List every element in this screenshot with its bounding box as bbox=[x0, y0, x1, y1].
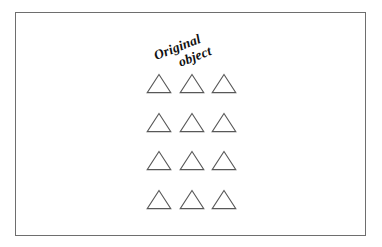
triangle-marker bbox=[211, 112, 237, 133]
triangle-marker bbox=[146, 189, 172, 210]
triangle-marker bbox=[146, 112, 172, 133]
triangle-marker bbox=[211, 150, 237, 171]
triangle-marker bbox=[211, 73, 237, 94]
figure-frame-border: Original object bbox=[15, 12, 366, 236]
triangle-marker bbox=[179, 189, 205, 210]
triangle-marker bbox=[179, 150, 205, 171]
triangle-marker bbox=[211, 189, 237, 210]
triangle-grid bbox=[16, 13, 367, 237]
triangle-marker bbox=[146, 150, 172, 171]
figure-canvas: Original object bbox=[0, 0, 382, 247]
triangle-marker bbox=[179, 112, 205, 133]
triangle-marker bbox=[146, 73, 172, 94]
triangle-marker bbox=[179, 73, 205, 94]
